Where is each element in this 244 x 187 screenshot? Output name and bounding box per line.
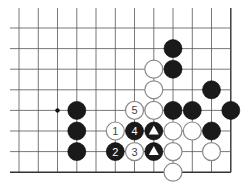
black-stone (68, 122, 86, 140)
move-number: 3 (131, 146, 137, 158)
black-stone-4: 4 (126, 122, 144, 140)
white-stone-5: 5 (126, 101, 144, 119)
white-stone-1: 1 (106, 122, 124, 140)
black-stone (203, 122, 221, 140)
black-stone (164, 40, 182, 58)
black-stone (164, 60, 182, 78)
black-stone-triangle (145, 143, 163, 161)
black-stone (68, 143, 86, 161)
white-stone (183, 122, 201, 140)
black-stone (203, 81, 221, 99)
go-board: 51423 (0, 0, 244, 187)
black-stone (183, 101, 201, 119)
black-stone (68, 101, 86, 119)
white-stone (145, 81, 163, 99)
move-number: 4 (131, 125, 137, 137)
star-point (55, 108, 59, 112)
white-stone (203, 143, 221, 161)
black-stone (222, 101, 240, 119)
white-stone-3: 3 (126, 143, 144, 161)
white-stone (145, 101, 163, 119)
move-number: 2 (112, 146, 118, 158)
move-number: 5 (131, 104, 137, 116)
white-stone (164, 163, 182, 181)
move-number: 1 (112, 125, 118, 137)
star-points (55, 108, 59, 112)
black-stone-triangle (145, 122, 163, 140)
black-stone (164, 101, 182, 119)
white-stone (164, 143, 182, 161)
black-stone-2: 2 (106, 143, 124, 161)
white-stone (145, 60, 163, 78)
white-stone (164, 122, 182, 140)
